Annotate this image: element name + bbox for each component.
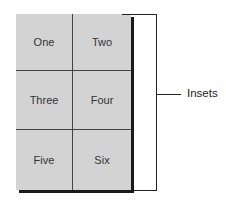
inset-cell-six: Six [73,130,131,190]
inset-cell-two: Two [73,14,131,71]
inset-cell-label: Six [94,154,109,166]
inset-cell-five: Five [16,130,73,190]
inset-cell-label: Three [30,94,59,106]
inset-cell-label: Two [92,36,112,48]
insets-label: Insets [187,87,218,99]
inset-cell-four: Four [73,71,131,130]
inset-cell-label: Five [34,154,55,166]
bracket-pointer-line [156,94,181,95]
inset-grid-panel: One Two Three Four Five Six [16,14,131,190]
bracket-bottom-line [134,190,157,191]
bracket-vertical-line [156,14,157,191]
bracket-top-line [122,14,157,15]
inset-cell-three: Three [16,71,73,130]
inset-cell-one: One [16,14,73,71]
inset-cell-label: One [34,36,55,48]
inset-cell-label: Four [91,94,114,106]
